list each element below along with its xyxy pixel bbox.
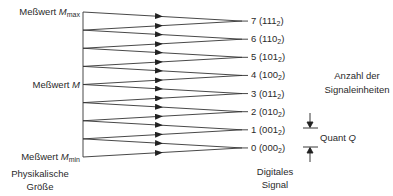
axis-title-physical: Physikalische Größe bbox=[2, 168, 78, 192]
quantization-lines bbox=[83, 12, 242, 157]
label-quant: Quant Q bbox=[320, 132, 356, 143]
level-leaders bbox=[242, 21, 248, 148]
level-label: 0 (0002) bbox=[251, 142, 285, 156]
level-label: 5 (1012) bbox=[251, 51, 285, 65]
level-label: 4 (1002) bbox=[251, 69, 285, 83]
level-label: 3 (0112) bbox=[251, 88, 284, 102]
quantization-diagram bbox=[0, 0, 393, 196]
label-mmax: Meßwert Mmax bbox=[4, 6, 80, 20]
label-mmin: Meßwert Mmin bbox=[4, 151, 80, 165]
level-label: 6 (1102) bbox=[251, 33, 284, 47]
level-label: 7 (1112) bbox=[251, 15, 284, 29]
label-m: Meßwert M bbox=[4, 79, 80, 90]
quant-indicator bbox=[303, 113, 318, 162]
label-count: Anzahl der Signaleinheiten bbox=[322, 70, 392, 95]
level-label: 2 (0102) bbox=[251, 106, 285, 120]
axis-title-digital: Digitales Signal bbox=[250, 166, 300, 190]
level-label: 1 (0012) bbox=[251, 124, 285, 138]
